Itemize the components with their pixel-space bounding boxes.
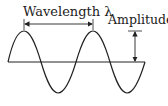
wave-diagram: Wavelength λ Amplitude — [0, 0, 168, 106]
wavelength-label: Wavelength λ — [23, 5, 113, 18]
amplitude-label: Amplitude — [108, 14, 168, 27]
